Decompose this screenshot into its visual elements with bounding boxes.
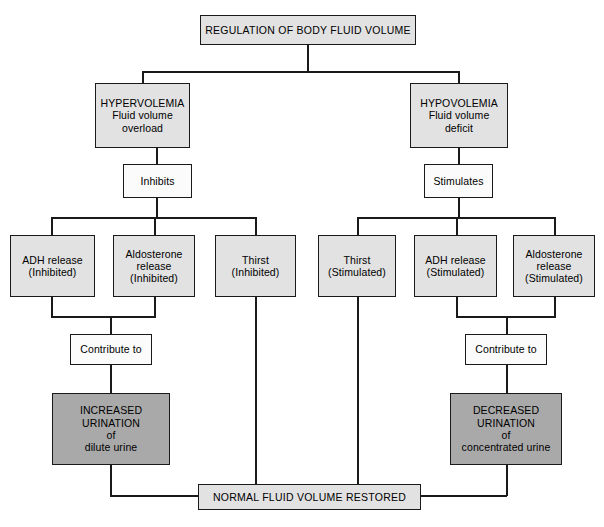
connector-decreased-urination-down [506, 465, 508, 496]
node-hypovolemia: HYPOVOLEMIA Fluid volume deficit [410, 83, 508, 148]
node-line-1: ADH release [425, 254, 486, 266]
connector-to-adh-stimulated [456, 217, 458, 235]
connector-adh-inhibited-down [51, 297, 53, 317]
node-contribute-to-right: Contribute to [465, 334, 547, 365]
connector-hypovolemia-to-stimulates [458, 148, 460, 165]
node-line-1: DECREASED [473, 404, 539, 416]
node-line-1: Thirst [242, 254, 269, 266]
node-text-block: Aldosterone release (Stimulated) [517, 248, 591, 285]
node-text-block: HYPERVOLEMIA Fluid volume overload [99, 97, 186, 134]
node-line-1: INCREASED [80, 404, 142, 416]
node-line-3: (Inhibited) [130, 272, 178, 284]
node-text-block: DECREASED URINATION of concentrated urin… [454, 404, 558, 453]
node-thirst-stimulated: Thirst (Stimulated) [318, 235, 396, 297]
node-line-2: (Inhibited) [29, 266, 77, 278]
node-line-1: HYPOVOLEMIA [420, 97, 498, 109]
node-text-block: HYPOVOLEMIA Fluid volume deficit [414, 97, 504, 134]
node-line-2: (Inhibited) [232, 266, 280, 278]
connector-aldosterone-stimulated-down [554, 297, 556, 317]
connector-inhibits-down [156, 198, 158, 218]
node-line-4: dilute urine [85, 441, 138, 453]
node-label: NORMAL FLUID VOLUME RESTORED [202, 491, 417, 503]
connector-right-result-to-outcome [419, 495, 507, 497]
node-line-3: (Stimulated) [525, 272, 583, 284]
node-decreased-urination: DECREASED URINATION of concentrated urin… [450, 393, 562, 465]
node-line-2: (Stimulated) [427, 266, 485, 278]
connector-left-merge-bus [51, 316, 156, 318]
node-label: Stimulates [428, 175, 489, 187]
node-line-2: URINATION [477, 417, 535, 429]
connector-merge-to-contribute-left [110, 316, 112, 334]
node-line-1: Thirst [344, 254, 371, 266]
connector-stimulates-down [458, 198, 460, 218]
connector-contribute-to-increased-urination [110, 365, 112, 393]
node-line-1: Aldosterone [125, 248, 182, 260]
node-normal-fluid-volume-restored: NORMAL FLUID VOLUME RESTORED [198, 484, 421, 510]
node-line-3: of [502, 429, 511, 441]
node-label: Inhibits [127, 175, 188, 187]
connector-to-thirst-stimulated [357, 217, 359, 235]
node-line-2: Fluid volume [429, 109, 490, 121]
node-line-3: of [107, 429, 116, 441]
node-line-1: ADH release [22, 254, 83, 266]
node-text-block: Thirst (Inhibited) [219, 254, 292, 279]
connector-increased-urination-down [110, 465, 112, 496]
node-line-3: deficit [445, 122, 473, 134]
node-line-2: release [536, 260, 571, 272]
node-label: REGULATION OF BODY FLUID VOLUME [204, 24, 412, 36]
node-line-2: URINATION [82, 417, 140, 429]
node-line-2: Fluid volume [112, 109, 173, 121]
node-regulation-of-body-fluid-volume: REGULATION OF BODY FLUID VOLUME [200, 15, 416, 45]
node-aldosterone-release-stimulated: Aldosterone release (Stimulated) [513, 235, 595, 297]
connector-thirst-inhibited-to-outcome [255, 297, 257, 485]
node-hypervolemia: HYPERVOLEMIA Fluid volume overload [95, 83, 190, 148]
node-line-1: HYPERVOLEMIA [101, 97, 185, 109]
node-line-4: concentrated urine [462, 441, 551, 453]
connector-merge-to-contribute-right [506, 316, 508, 334]
node-text-block: INCREASED URINATION of dilute urine [56, 404, 166, 453]
flowchart-canvas: REGULATION OF BODY FLUID VOLUME HYPERVOL… [0, 0, 604, 527]
node-contribute-to-left: Contribute to [70, 334, 152, 365]
connector-aldosterone-inhibited-down [154, 297, 156, 317]
node-text-block: ADH release (Inhibited) [14, 254, 91, 279]
node-label: Contribute to [469, 343, 543, 355]
node-line-3: overload [122, 122, 163, 134]
connector-hypervolemia-to-inhibits [156, 148, 158, 165]
node-thirst-inhibited: Thirst (Inhibited) [215, 235, 296, 297]
connector-to-adh-inhibited [51, 217, 53, 235]
node-stimulates: Stimulates [424, 164, 493, 198]
node-text-block: Thirst (Stimulated) [322, 254, 392, 279]
node-line-2: (Stimulated) [328, 266, 386, 278]
connector-title-split-bus [142, 71, 459, 73]
node-text-block: Aldosterone release (Inhibited) [117, 248, 191, 285]
node-increased-urination: INCREASED URINATION of dilute urine [52, 393, 170, 465]
node-adh-release-stimulated: ADH release (Stimulated) [414, 235, 497, 297]
node-line-2: release [136, 260, 171, 272]
connector-to-aldosterone-stimulated [554, 217, 556, 235]
connector-to-aldosterone-inhibited [154, 217, 156, 235]
connector-to-hypervolemia [142, 71, 144, 83]
connector-contribute-to-decreased-urination [506, 365, 508, 393]
connector-thirst-stimulated-to-outcome [357, 297, 359, 485]
connector-adh-stimulated-down [456, 297, 458, 317]
node-line-1: Aldosterone [525, 248, 582, 260]
node-inhibits: Inhibits [123, 164, 192, 198]
node-label: Contribute to [74, 343, 148, 355]
connector-to-hypovolemia [458, 71, 460, 83]
connector-title-down [307, 45, 309, 72]
node-adh-release-inhibited: ADH release (Inhibited) [10, 235, 95, 297]
node-text-block: ADH release (Stimulated) [418, 254, 493, 279]
connector-left-result-to-outcome [110, 495, 200, 497]
connector-to-thirst-inhibited [255, 217, 257, 235]
node-aldosterone-release-inhibited: Aldosterone release (Inhibited) [113, 235, 195, 297]
